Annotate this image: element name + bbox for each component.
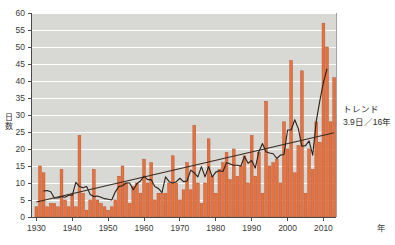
x-tick-label: 1930 xyxy=(27,223,46,233)
x-tick-label: 1980 xyxy=(206,223,225,233)
y-tick-label: 5 xyxy=(20,195,25,205)
x-tick-label: 1940 xyxy=(63,223,82,233)
chart-container: 051015202530354045505560 193019401950196… xyxy=(0,0,395,245)
y-tick-label: 35 xyxy=(16,93,26,103)
x-tick-label: 2010 xyxy=(314,223,333,233)
y-axis-title-char-1: 日数 xyxy=(5,113,13,131)
y-tick-label: 20 xyxy=(16,144,26,154)
y-tick-label: 25 xyxy=(16,127,26,137)
trend-legend-title: トレンド xyxy=(343,104,379,114)
x-tick-label: 1950 xyxy=(99,223,118,233)
days-per-year-bar-chart: 051015202530354045505560 193019401950196… xyxy=(0,0,395,245)
y-tick-label: 15 xyxy=(16,161,26,171)
x-tick-label: 2000 xyxy=(278,223,297,233)
y-tick-label: 55 xyxy=(16,25,26,35)
y-tick-label: 50 xyxy=(16,42,26,52)
x-tick-label: 1960 xyxy=(135,223,154,233)
y-tick-label: 10 xyxy=(16,178,26,188)
trend-legend-value: 3.9日／16年 xyxy=(343,117,391,127)
y-tick-label: 60 xyxy=(16,8,26,18)
x-tick-label: 1990 xyxy=(242,223,261,233)
x-axis-unit-label: 年 xyxy=(377,223,386,233)
y-tick-label: 0 xyxy=(20,212,25,222)
x-tick-label: 1970 xyxy=(170,223,189,233)
y-tick-label: 40 xyxy=(16,76,26,86)
y-tick-label: 30 xyxy=(16,110,26,120)
y-tick-label: 45 xyxy=(16,59,26,69)
